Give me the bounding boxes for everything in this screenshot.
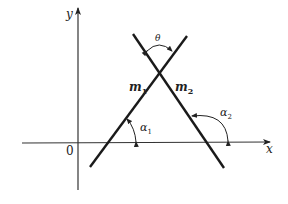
alpha2-label: α2 — [220, 106, 232, 121]
theta-arc — [147, 45, 172, 51]
line-m2 — [133, 34, 224, 168]
diagram-svg: y x 0 θ m1 m2 α1 α2 — [0, 0, 288, 204]
m1-label: m1 — [129, 80, 147, 96]
theta-label: θ — [155, 33, 161, 43]
y-axis-label: y — [65, 7, 73, 21]
line-m1 — [90, 36, 187, 167]
x-axis — [22, 142, 270, 143]
x-axis-label: x — [266, 142, 273, 156]
alpha1-arc — [127, 119, 136, 142]
alpha1-label: α1 — [140, 121, 152, 136]
origin-label: 0 — [66, 144, 74, 158]
diagram-canvas: y x 0 θ m1 m2 α1 α2 — [0, 0, 288, 204]
m2-label: m2 — [175, 80, 193, 96]
